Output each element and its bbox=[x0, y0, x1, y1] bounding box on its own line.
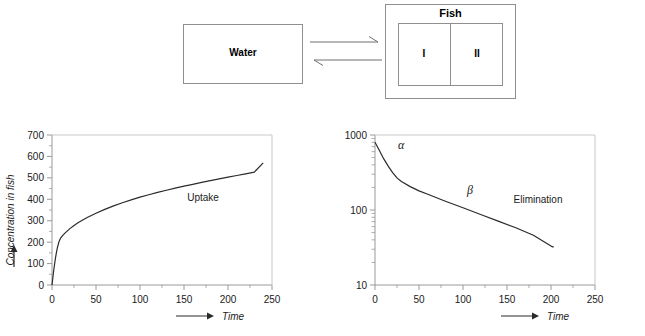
x-tick-label: 100 bbox=[455, 294, 472, 305]
uptake-x-tick-labels: 050100150200250 bbox=[49, 294, 281, 305]
y-tick-label: 1000 bbox=[345, 130, 368, 141]
y-tick-label: 100 bbox=[350, 205, 367, 216]
x-tick-label: 0 bbox=[372, 294, 378, 305]
compartment-diagram: Water Fish I II bbox=[0, 0, 645, 112]
compartment-2-label: II bbox=[451, 48, 503, 59]
x-tick-label: 0 bbox=[49, 294, 55, 305]
elimination-y-axis-ticks bbox=[370, 135, 375, 285]
uptake-y-axis-ticks bbox=[47, 135, 52, 285]
uptake-plot-frame bbox=[52, 135, 272, 285]
x-tick-label: 250 bbox=[587, 294, 604, 305]
x-tick-label: 250 bbox=[264, 294, 281, 305]
x-tick-label: 100 bbox=[132, 294, 149, 305]
x-axis-arrow-icon bbox=[501, 313, 539, 320]
equilibrium-arrows bbox=[310, 36, 382, 70]
elimination-x-tick-labels: 050100150200250 bbox=[372, 294, 604, 305]
y-tick-label: 600 bbox=[27, 151, 44, 162]
x-tick-label: 50 bbox=[90, 294, 102, 305]
alpha-phase-label: α bbox=[398, 138, 405, 152]
y-tick-label: 100 bbox=[27, 258, 44, 269]
uptake-curve bbox=[52, 163, 263, 285]
x-tick-label: 50 bbox=[413, 294, 425, 305]
elimination-annotation: Elimination bbox=[514, 194, 563, 205]
elimination-y-tick-labels: 101001000 bbox=[345, 130, 368, 291]
x-tick-label: 200 bbox=[220, 294, 237, 305]
y-tick-label: 700 bbox=[27, 130, 44, 141]
x-tick-label: 150 bbox=[499, 294, 516, 305]
x-axis-arrow-icon bbox=[176, 313, 214, 320]
y-tick-label: 0 bbox=[38, 280, 44, 291]
forward-arrow-icon bbox=[310, 37, 378, 43]
compartment-1-label: I bbox=[398, 48, 450, 59]
y-tick-label: 200 bbox=[27, 237, 44, 248]
uptake-chart: 0100200300400500600700 050100150200250 C… bbox=[0, 125, 330, 336]
beta-phase-label: β bbox=[466, 183, 473, 197]
elimination-plot-frame bbox=[375, 135, 595, 285]
elimination-x-axis-ticks bbox=[375, 285, 595, 290]
water-compartment-label: Water bbox=[183, 47, 303, 58]
x-tick-label: 150 bbox=[176, 294, 193, 305]
y-tick-label: 500 bbox=[27, 172, 44, 183]
elimination-x-axis-title: Time bbox=[547, 311, 570, 322]
uptake-y-tick-labels: 0100200300400500600700 bbox=[27, 130, 44, 291]
uptake-annotation: Uptake bbox=[187, 192, 219, 203]
fish-compartment-label: Fish bbox=[385, 7, 516, 19]
uptake-x-axis-title: Time bbox=[222, 311, 245, 322]
y-tick-label: 400 bbox=[27, 194, 44, 205]
x-tick-label: 200 bbox=[543, 294, 560, 305]
uptake-x-axis-ticks bbox=[52, 285, 272, 290]
elimination-chart: 101001000 050100150200250 α β Eliminatio… bbox=[330, 125, 645, 336]
y-tick-label: 10 bbox=[356, 280, 368, 291]
y-tick-label: 300 bbox=[27, 215, 44, 226]
reverse-arrow-icon bbox=[314, 60, 382, 66]
